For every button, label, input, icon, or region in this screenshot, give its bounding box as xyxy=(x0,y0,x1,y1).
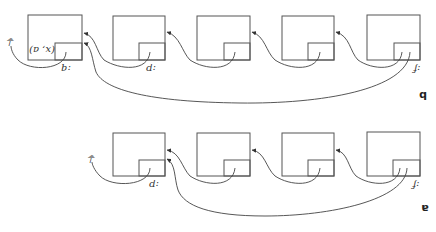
edge-arrow xyxy=(336,150,400,183)
node-label-p: :p xyxy=(146,64,156,75)
edge-long-arrow xyxy=(84,43,410,103)
panel-label-a: a xyxy=(421,202,428,215)
ground-icon: ⏚ xyxy=(6,36,16,47)
edge-arrow xyxy=(167,32,235,67)
panel-a: ⏚ :p :f a xyxy=(87,132,429,216)
frame-node xyxy=(113,16,165,60)
pair-label: (x, a) xyxy=(29,45,55,56)
edge-arrow xyxy=(252,32,320,67)
panel-b: ⏚ (x, a) :q :p :f b xyxy=(6,15,427,103)
frame-node xyxy=(282,133,334,176)
frame-node xyxy=(197,133,250,176)
edge-arrow xyxy=(167,150,235,183)
edge-arrow xyxy=(336,32,402,67)
edge-arrow xyxy=(84,33,150,67)
node-label-q: :q xyxy=(61,64,71,75)
edge-arrow xyxy=(252,150,320,183)
frame-node xyxy=(113,133,165,176)
frame-node xyxy=(197,16,250,60)
ground-icon: ⏚ xyxy=(87,153,97,164)
node-label-f: :f xyxy=(411,64,420,75)
node-label-f: :f xyxy=(410,180,419,191)
frame-node xyxy=(282,16,334,60)
panel-label-b: b xyxy=(419,89,427,102)
frame-node xyxy=(367,132,420,176)
edge-ground xyxy=(92,162,150,184)
diagram-canvas: ⏚ (x, a) :q :p :f b ⏚ :p :f xyxy=(0,0,436,232)
node-label-p: :p xyxy=(149,180,159,191)
frame-node xyxy=(367,15,420,60)
edge-long-arrow xyxy=(167,159,407,216)
